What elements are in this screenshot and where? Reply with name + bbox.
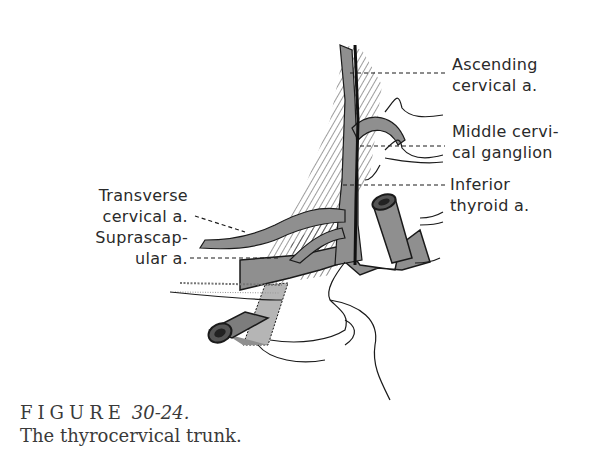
figure-no: 30-24. (132, 402, 190, 423)
label-line: Suprascap- (80, 227, 188, 248)
figure-word: FIGURE (20, 402, 126, 423)
label-inferior-thyroid: Inferior thyroid a. (450, 174, 529, 216)
label-transverse-cervical: Transverse cervical a. (88, 185, 188, 227)
common-carotid-artery (370, 191, 412, 263)
label-line: cervical a. (88, 206, 188, 227)
figure-number: FIGURE30-24. (20, 402, 189, 423)
label-line: ular a. (80, 248, 188, 269)
label-line: thyroid a. (450, 195, 529, 216)
label-line: cal ganglion (452, 142, 559, 163)
label-line: Ascending (452, 54, 538, 75)
label-line: Middle cervi- (452, 121, 559, 142)
label-middle-cervical-ganglion: Middle cervi- cal ganglion (452, 121, 559, 163)
figure-caption: The thyrocervical trunk. (20, 425, 242, 446)
label-suprascapular: Suprascap- ular a. (80, 227, 188, 269)
label-line: Transverse (88, 185, 188, 206)
label-line: cervical a. (452, 75, 538, 96)
label-line: Inferior (450, 174, 529, 195)
label-ascending-cervical: Ascending cervical a. (452, 54, 538, 96)
